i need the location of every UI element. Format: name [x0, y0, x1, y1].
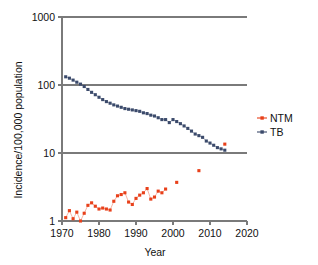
data-point: [75, 211, 78, 214]
data-point: [94, 205, 97, 208]
data-point: [97, 96, 100, 99]
data-point: [75, 81, 78, 84]
data-point: [157, 116, 160, 119]
data-point: [208, 142, 211, 145]
data-point: [164, 188, 167, 191]
data-point: [201, 136, 204, 139]
y-axis-title: Incidence/100,000 population: [12, 61, 24, 198]
data-point: [105, 100, 108, 103]
data-point: [223, 143, 226, 146]
data-point: [186, 127, 189, 130]
legend-marker-tb: [260, 130, 263, 133]
data-point: [149, 114, 152, 117]
data-point: [68, 209, 71, 212]
data-point: [142, 111, 145, 114]
data-point: [146, 187, 149, 190]
data-point: [223, 149, 226, 152]
data-point: [138, 194, 141, 197]
data-point: [205, 139, 208, 142]
data-point: [83, 85, 86, 88]
data-point: [153, 114, 156, 117]
x-tick-label-1980: 1980: [87, 227, 111, 239]
data-point: [171, 118, 174, 121]
y-tick-label-1: 1: [49, 215, 55, 227]
data-point: [112, 103, 115, 106]
data-point: [134, 197, 137, 200]
y-tick-label-10: 10: [43, 147, 55, 159]
data-point: [109, 208, 112, 211]
data-point: [109, 102, 112, 105]
data-point: [68, 77, 71, 80]
data-point: [175, 120, 178, 123]
data-point: [86, 88, 89, 91]
data-point: [153, 196, 156, 199]
x-axis-title: Year: [144, 246, 166, 258]
data-point: [83, 212, 86, 215]
data-point: [101, 98, 104, 101]
data-point: [131, 203, 134, 206]
data-point: [127, 200, 130, 203]
data-point: [64, 216, 67, 219]
data-point: [120, 106, 123, 109]
data-point: [138, 110, 141, 113]
data-point: [123, 191, 126, 194]
data-point: [183, 124, 186, 127]
x-tick-label-1970: 1970: [50, 227, 74, 239]
legend-label-tb: TB: [270, 126, 283, 138]
data-point: [94, 93, 97, 96]
data-point: [120, 193, 123, 196]
data-point: [72, 217, 75, 220]
data-point: [212, 144, 215, 147]
chart-figure: 1101001000 197019801990200020102020 NTMT…: [0, 0, 318, 265]
data-point: [86, 204, 89, 207]
y-tick-label-1000: 1000: [32, 11, 56, 23]
data-point: [157, 190, 160, 193]
data-point: [90, 91, 93, 94]
data-point: [97, 207, 100, 210]
data-point: [116, 194, 119, 197]
data-point: [116, 105, 119, 108]
data-point: [131, 108, 134, 111]
data-point: [146, 112, 149, 115]
legend-label-ntm: NTM: [270, 112, 293, 124]
data-point: [127, 108, 130, 111]
data-point: [90, 201, 93, 204]
data-point: [168, 121, 171, 124]
data-point: [149, 198, 152, 201]
data-point: [190, 130, 193, 133]
data-point: [142, 191, 145, 194]
data-point: [164, 118, 167, 121]
data-point: [123, 107, 126, 110]
data-point: [105, 207, 108, 210]
data-point: [220, 147, 223, 150]
data-point: [160, 118, 163, 121]
x-tick-label-2020: 2020: [235, 227, 259, 239]
x-tick-label-2000: 2000: [161, 227, 185, 239]
data-point: [72, 79, 75, 82]
incidence-log-chart: 1101001000 197019801990200020102020 NTMT…: [0, 0, 318, 265]
data-point: [194, 132, 197, 135]
data-point: [175, 181, 178, 184]
data-point: [79, 83, 82, 86]
x-tick-label-2010: 2010: [198, 227, 222, 239]
data-point: [64, 75, 67, 78]
data-point: [112, 200, 115, 203]
data-point: [101, 207, 104, 210]
data-point: [134, 109, 137, 112]
data-point: [197, 169, 200, 172]
data-point: [79, 219, 82, 222]
data-point: [197, 134, 200, 137]
legend-marker-ntm: [260, 116, 263, 119]
x-tick-label-1990: 1990: [124, 227, 148, 239]
data-point: [179, 122, 182, 125]
data-point: [160, 191, 163, 194]
data-point: [216, 146, 219, 149]
y-tick-label-100: 100: [37, 79, 55, 91]
